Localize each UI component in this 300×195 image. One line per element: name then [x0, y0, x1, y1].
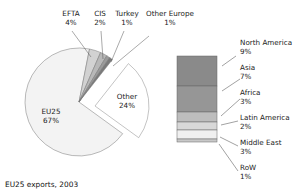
- label-asia-pct: 7%: [240, 72, 255, 81]
- label-middle-east-pct: 3%: [240, 147, 282, 156]
- label-turkey-pct: 1%: [112, 18, 142, 27]
- bar-segment-row: [177, 139, 217, 142]
- label-asia-name: Asia: [240, 63, 255, 72]
- chart-caption: EU25 exports, 2003: [5, 180, 78, 189]
- label-other-name: Other: [113, 92, 141, 101]
- label-latin-america-name: Latin America: [240, 113, 290, 122]
- bar-segment-middle-east: [177, 130, 217, 139]
- label-cis: CIS 2%: [88, 9, 112, 27]
- label-turkey-name: Turkey: [112, 9, 142, 18]
- label-middle-east-name: Middle East: [240, 138, 282, 147]
- label-efta-name: EFTA: [54, 9, 88, 18]
- label-north-america: North America 9%: [240, 38, 292, 56]
- label-other: Other 24%: [113, 92, 141, 110]
- label-africa-name: Africa: [240, 88, 261, 97]
- label-other-europe: Other Europe 1%: [143, 9, 197, 27]
- bar-segment-latin-america: [177, 122, 217, 130]
- label-row: RoW 1%: [240, 163, 256, 181]
- label-eu25: EU25 67%: [38, 107, 64, 125]
- label-asia: Asia 7%: [240, 63, 255, 81]
- label-africa: Africa 3%: [240, 88, 261, 106]
- label-efta-pct: 4%: [54, 18, 88, 27]
- label-cis-pct: 2%: [88, 18, 112, 27]
- bar-leader-lines: [219, 56, 240, 171]
- label-latin-america: Latin America 2%: [240, 113, 290, 131]
- label-efta: EFTA 4%: [54, 9, 88, 27]
- label-eu25-pct: 67%: [38, 116, 64, 125]
- label-other-pct: 24%: [113, 101, 141, 110]
- bar-segment-north-america: [177, 56, 217, 86]
- label-row-name: RoW: [240, 163, 256, 172]
- label-row-pct: 1%: [240, 172, 256, 181]
- label-turkey: Turkey 1%: [112, 9, 142, 27]
- label-cis-name: CIS: [88, 9, 112, 18]
- bar-segment-asia: [177, 86, 217, 112]
- label-north-america-pct: 9%: [240, 47, 292, 56]
- label-north-america-name: North America: [240, 38, 292, 47]
- bar-segment-africa: [177, 112, 217, 122]
- stacked-bar: [177, 56, 217, 142]
- label-middle-east: Middle East 3%: [240, 138, 282, 156]
- label-latin-america-pct: 2%: [240, 122, 290, 131]
- label-other-europe-name: Other Europe: [143, 9, 197, 18]
- label-eu25-name: EU25: [38, 107, 64, 116]
- label-other-europe-pct: 1%: [143, 18, 197, 27]
- label-africa-pct: 3%: [240, 97, 261, 106]
